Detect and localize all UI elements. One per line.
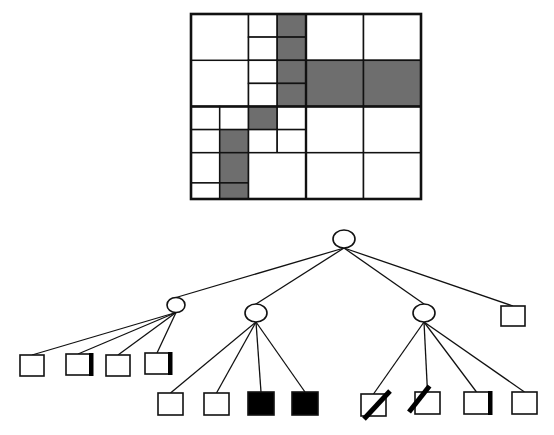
leaf-partial-bar-l-nw-2 <box>89 353 94 376</box>
grid-cell-q2-ne <box>364 14 422 60</box>
quadtree-image-decomposition <box>187 10 426 204</box>
tree-leaf-l-nw-4 <box>145 352 173 375</box>
grid-cell-q3-sw-nw <box>191 153 220 183</box>
grid-cell-q1-ne-nw <box>249 14 278 37</box>
grid-cell-q3-ne-se <box>277 130 306 153</box>
leaf-square-l-ne-3 <box>248 392 274 415</box>
tree-leaf-l-ne-3 <box>248 392 274 415</box>
tree-edge <box>176 248 344 298</box>
leaf-square-l-nw-2 <box>66 354 90 375</box>
grid-cell-q3-ne-ne <box>277 107 306 130</box>
tree-leaf-l-ne-1 <box>158 393 183 415</box>
grid-cell-q3-nw-sw <box>191 130 220 153</box>
tree-leaf-l-sw-1 <box>361 391 390 419</box>
grid-cell-q2-se <box>364 60 422 106</box>
leaf-square-l-sw-3 <box>464 392 489 414</box>
grid-cell-q3-se <box>249 153 307 199</box>
tree-node-n-ne <box>245 304 267 322</box>
leaf-square-l-ne-4 <box>292 392 318 415</box>
grid-cell-q3-sw-ne <box>220 153 249 183</box>
tree-edge <box>171 322 257 393</box>
grid-cell-q1-ne-se <box>277 37 306 60</box>
leaf-square-l-nw-3 <box>106 355 130 376</box>
tree-node-n-sw <box>413 304 435 322</box>
tree-edge <box>157 313 176 354</box>
grid-cell-q4-ne <box>364 107 422 153</box>
leaf-partial-bar-l-nw-4 <box>168 352 173 375</box>
tree-node-root <box>333 230 355 248</box>
grid-cell-q3-ne-nw <box>249 107 278 130</box>
tree-edge <box>256 248 344 304</box>
grid-cell-q1-se-ne <box>277 60 306 83</box>
grid-cell-q3-ne-sw <box>249 130 278 153</box>
leaf-square-l-nw-4 <box>145 353 169 374</box>
grid-cell-q1-sw <box>191 60 249 106</box>
tree-leaf-l-ne-2 <box>204 393 229 415</box>
tree-leaf-l-root-4 <box>501 306 525 326</box>
tree-edge <box>256 322 261 392</box>
grid-cell-q4-se <box>364 153 422 199</box>
tree-edge <box>424 322 477 392</box>
tree-leaf-l-ne-4 <box>292 392 318 415</box>
tree-canvas <box>0 215 554 435</box>
tree-edge <box>344 248 513 306</box>
tree-leaf-l-nw-3 <box>106 355 130 376</box>
tree-leaf-l-sw-3 <box>464 391 493 415</box>
tree-edge <box>374 322 425 394</box>
grid-cell-q2-sw <box>306 60 364 106</box>
grid-cell-q1-se-nw <box>249 60 278 83</box>
leaf-square-l-sw-4 <box>512 392 537 414</box>
grid-cell-q3-nw-se <box>220 130 249 153</box>
grid-cell-q1-ne-sw <box>249 37 278 60</box>
leaf-square-l-nw-1 <box>20 355 44 376</box>
tree-edge <box>424 322 428 392</box>
grid-cell-q1-ne-ne <box>277 14 306 37</box>
leaf-square-l-ne-2 <box>204 393 229 415</box>
grid-canvas <box>187 10 426 204</box>
grid-cell-q3-nw-ne <box>220 107 249 130</box>
tree-leaf-l-sw-4 <box>512 392 537 414</box>
tree-leaf-l-sw-2 <box>409 386 440 414</box>
leaf-square-l-root-4 <box>501 306 525 326</box>
grid-cell-q3-sw-sw <box>191 183 220 199</box>
grid-cell-q4-nw <box>306 107 364 153</box>
tree-edge <box>256 322 305 392</box>
tree-edge <box>32 313 176 356</box>
leaf-square-l-ne-1 <box>158 393 183 415</box>
grid-cell-q4-sw <box>306 153 364 199</box>
tree-edge <box>424 322 525 392</box>
leaf-partial-bar-l-sw-3 <box>488 391 493 415</box>
grid-cell-q3-sw-se <box>220 183 249 199</box>
grid-cell-q1-se-sw <box>249 83 278 106</box>
quadtree-tree-diagram <box>0 215 554 435</box>
grid-cell-q2-nw <box>306 14 364 60</box>
tree-edge <box>344 248 424 304</box>
grid-cell-q3-nw-nw <box>191 107 220 130</box>
tree-leaf-l-nw-2 <box>66 353 94 376</box>
quadtree-figure <box>0 0 554 435</box>
tree-node-n-nw <box>167 298 185 313</box>
grid-cell-q1-se-se <box>277 83 306 106</box>
tree-edge <box>217 322 257 393</box>
tree-leaf-l-nw-1 <box>20 355 44 376</box>
